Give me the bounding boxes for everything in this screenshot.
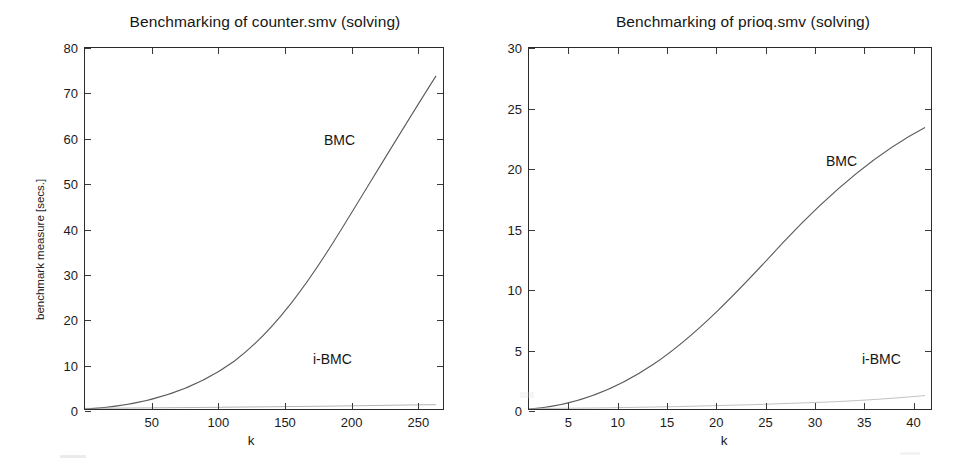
- y-tick-label-15: 15: [508, 222, 522, 237]
- x-tick-top-10: [618, 48, 619, 54]
- y-tick-label-5: 5: [515, 343, 522, 358]
- y-tick-right-40: [437, 230, 443, 231]
- x-tick-label-100: 100: [207, 415, 229, 430]
- x-tick-40: [914, 403, 915, 409]
- benchmark-figure: Benchmarking of counter.smv (solving) be…: [0, 0, 964, 473]
- chart-title-counter: Benchmarking of counter.smv (solving): [24, 13, 506, 31]
- y-tick-10: [529, 290, 535, 291]
- x-tick-20: [716, 403, 717, 409]
- x-tick-label-20: 20: [709, 415, 723, 430]
- plot-curves-counter: [85, 48, 443, 409]
- x-tick-250: [418, 403, 419, 409]
- x-tick-top-25: [766, 48, 767, 54]
- y-tick-label-70: 70: [64, 86, 78, 101]
- y-tick-60: [85, 139, 91, 140]
- x-tick-5: [568, 403, 569, 409]
- series-label-bmc-counter: BMC: [324, 132, 355, 148]
- x-tick-label-10: 10: [610, 415, 624, 430]
- bmc-curve-counter: [85, 76, 436, 409]
- y-tick-right-30: [437, 275, 443, 276]
- y-tick-label-40: 40: [64, 222, 78, 237]
- x-tick-label-150: 150: [274, 415, 296, 430]
- y-tick-30: [529, 48, 535, 49]
- y-tick-80: [85, 48, 91, 49]
- y-tick-20: [85, 320, 91, 321]
- chart-panel-prioq: Benchmarking of prioq.smv (solving): [482, 0, 964, 473]
- x-tick-top-15: [667, 48, 668, 54]
- scan-speckle: [520, 392, 534, 398]
- y-tick-label-60: 60: [64, 131, 78, 146]
- x-tick-top-200: [352, 48, 353, 54]
- x-tick-150: [285, 403, 286, 409]
- x-axis-label-prioq: k: [721, 433, 728, 448]
- y-tick-label-80: 80: [64, 41, 78, 56]
- x-tick-top-250: [418, 48, 419, 54]
- chart-title-prioq: Benchmarking of prioq.smv (solving): [502, 13, 964, 31]
- series-label-ibmc-counter: i-BMC: [313, 351, 352, 367]
- y-tick-50: [85, 184, 91, 185]
- x-tick-label-250: 250: [407, 415, 429, 430]
- y-tick-right-10: [437, 366, 443, 367]
- y-tick-label-20: 20: [508, 162, 522, 177]
- x-tick-label-50: 50: [144, 415, 158, 430]
- y-tick-right-15: [925, 230, 931, 231]
- y-tick-40: [85, 230, 91, 231]
- y-tick-right-5: [925, 351, 931, 352]
- x-tick-top-150: [285, 48, 286, 54]
- x-tick-top-50: [152, 48, 153, 54]
- y-tick-label-30: 30: [508, 41, 522, 56]
- y-tick-label-10: 10: [508, 283, 522, 298]
- x-tick-top-5: [568, 48, 569, 54]
- y-tick-label-0: 0: [515, 404, 522, 419]
- y-tick-25: [529, 109, 535, 110]
- chart-panel-counter: Benchmarking of counter.smv (solving) be…: [0, 0, 482, 473]
- y-tick-right-20: [925, 169, 931, 170]
- y-tick-20: [529, 169, 535, 170]
- x-tick-25: [766, 403, 767, 409]
- x-tick-label-15: 15: [660, 415, 674, 430]
- y-tick-30: [85, 275, 91, 276]
- x-tick-15: [667, 403, 668, 409]
- x-tick-200: [352, 403, 353, 409]
- series-label-ibmc-prioq: i-BMC: [862, 351, 901, 367]
- y-tick-right-50: [437, 184, 443, 185]
- x-tick-10: [618, 403, 619, 409]
- y-tick-label-25: 25: [508, 101, 522, 116]
- y-tick-label-20: 20: [64, 313, 78, 328]
- y-tick-label-10: 10: [64, 358, 78, 373]
- x-tick-top-30: [815, 48, 816, 54]
- x-tick-label-40: 40: [906, 415, 920, 430]
- y-tick-label-30: 30: [64, 267, 78, 282]
- y-tick-10: [85, 366, 91, 367]
- y-tick-right-70: [437, 93, 443, 94]
- y-tick-label-0: 0: [71, 404, 78, 419]
- x-tick-50: [152, 403, 153, 409]
- y-tick-70: [85, 93, 91, 94]
- y-tick-right-10: [925, 290, 931, 291]
- scan-speckle: [900, 452, 920, 455]
- ibmc-curve-counter: [85, 405, 436, 409]
- x-tick-100: [218, 403, 219, 409]
- x-tick-label-200: 200: [341, 415, 363, 430]
- y-tick-right-60: [437, 139, 443, 140]
- y-tick-0: [85, 411, 91, 412]
- y-tick-right-25: [925, 109, 931, 110]
- y-tick-0: [529, 411, 535, 412]
- series-label-bmc-prioq: BMC: [826, 153, 857, 169]
- x-tick-label-25: 25: [758, 415, 772, 430]
- scan-speckle: [60, 455, 86, 458]
- x-tick-top-35: [864, 48, 865, 54]
- y-tick-label-50: 50: [64, 177, 78, 192]
- x-tick-label-35: 35: [857, 415, 871, 430]
- plot-area-prioq: 0 5 10 15 20 25 30 5 10: [528, 47, 932, 410]
- x-tick-top-40: [914, 48, 915, 54]
- x-tick-label-30: 30: [808, 415, 822, 430]
- x-tick-top-100: [218, 48, 219, 54]
- x-tick-top-20: [716, 48, 717, 54]
- x-axis-label-counter: k: [248, 433, 255, 448]
- x-tick-label-5: 5: [565, 415, 572, 430]
- y-axis-label-counter: benchmark measure [secs.]: [34, 179, 46, 320]
- plot-area-counter: 0 10 20 30 40 50 60 70 80 50 100 150 200: [84, 47, 444, 410]
- x-tick-35: [864, 403, 865, 409]
- y-tick-15: [529, 230, 535, 231]
